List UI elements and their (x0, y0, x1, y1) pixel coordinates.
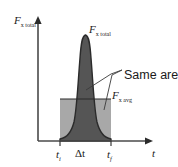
diagram-canvas: Fx total Fx total Fx avg Same areas ti Δ… (0, 0, 178, 167)
average-force-label: Fx avg (111, 89, 132, 103)
time-axis-arrowhead (145, 137, 153, 144)
impulse-force-diagram: Fx total Fx total Fx avg Same areas ti Δ… (0, 0, 178, 167)
tick-label-t-final: tf (107, 148, 113, 162)
same-areas-label: Same areas (124, 68, 178, 82)
time-axis-label: t (152, 147, 156, 159)
peak-curve-label: Fx total (88, 23, 111, 37)
tick-label-t-initial: ti (56, 148, 61, 162)
delta-t-label: Δt (75, 147, 85, 159)
force-axis-label: Fx total (13, 14, 36, 28)
